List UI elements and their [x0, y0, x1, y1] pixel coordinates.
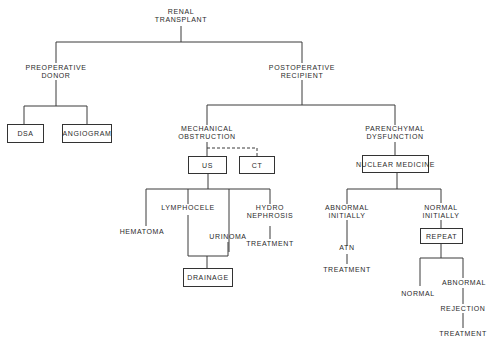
node-ct: CT	[239, 156, 275, 174]
node-label: RENAL	[155, 8, 207, 16]
node-label: MECHANICAL	[178, 125, 236, 133]
node-dsa: DSA	[7, 124, 44, 143]
node-normal-initially: NORMAL INITIALLY	[422, 204, 459, 220]
node-urinoma: URINOMA	[209, 233, 246, 241]
node-rejection-treatment: TREATMENT	[439, 330, 487, 338]
node-label: NEPHROSIS	[247, 212, 294, 220]
node-label: INITIALLY	[422, 212, 459, 220]
node-hematoma: HEMATOMA	[120, 228, 165, 236]
node-parenchymal-dysfunction: PARENCHYMAL DYSFUNCTION	[365, 125, 424, 141]
node-label: RECIPIENT	[269, 72, 335, 80]
node-label: INITIALLY	[325, 212, 369, 220]
node-label: ABNORMAL	[325, 204, 369, 212]
node-us: US	[188, 156, 227, 174]
node-repeat: REPEAT	[420, 228, 463, 244]
node-rejection: REJECTION	[440, 305, 485, 313]
node-label: PARENCHYMAL	[365, 125, 424, 133]
node-preoperative-donor: PREOPERATIVE DONOR	[25, 64, 86, 80]
node-label: POSTOPERATIVE	[269, 64, 335, 72]
node-abnormal: ABNORMAL	[442, 279, 486, 287]
node-angiogram: ANGIOGRAM	[62, 124, 112, 143]
node-abnormal-initially: ABNORMAL INITIALLY	[325, 204, 369, 220]
node-atn-treatment: TREATMENT	[323, 266, 371, 274]
node-hydronephrosis: HYDRO NEPHROSIS	[247, 204, 294, 220]
node-label: PREOPERATIVE	[25, 64, 86, 72]
node-label: OBSTRUCTION	[178, 133, 236, 141]
node-label: DYSFUNCTION	[365, 133, 424, 141]
node-hydro-treatment: TREATMENT	[246, 240, 294, 248]
node-label: NORMAL	[422, 204, 459, 212]
node-nuclear-medicine: NUCLEAR MEDICINE	[362, 155, 429, 173]
node-drainage: DRAINAGE	[183, 268, 233, 287]
node-normal: NORMAL	[401, 290, 435, 298]
node-atn: ATN	[339, 244, 354, 252]
node-lymphocele: LYMPHOCELE	[161, 204, 214, 212]
node-renal-transplant: RENAL TRANSPLANT	[155, 8, 207, 24]
node-label: TRANSPLANT	[155, 16, 207, 24]
node-label: HYDRO	[247, 204, 294, 212]
node-postoperative-recipient: POSTOPERATIVE RECIPIENT	[269, 64, 335, 80]
node-label: DONOR	[25, 72, 86, 80]
node-mechanical-obstruction: MECHANICAL OBSTRUCTION	[178, 125, 236, 141]
